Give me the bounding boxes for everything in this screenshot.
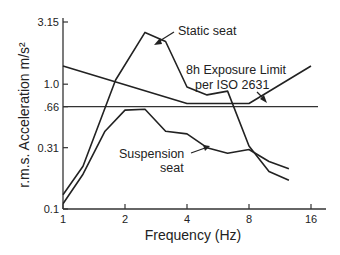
annotation-iso: per ISO 2631: [195, 78, 269, 92]
chart: 3.151.0.660.310.1 124816 Static seat 8h …: [0, 0, 340, 255]
y-axis-label: r.m.s. Acceleration m/s²: [16, 42, 32, 188]
x-tick-label: 8: [246, 213, 252, 225]
annotation-suspension: Suspension: [119, 147, 184, 161]
x-ticks: 124816: [60, 204, 317, 225]
y-tick-label: 1.0: [44, 78, 59, 90]
x-tick-label: 16: [305, 213, 317, 225]
x-axis-label: Frequency (Hz): [145, 227, 241, 243]
arrow-suspension: [191, 148, 205, 153]
series-group: [63, 32, 311, 203]
x-tick-label: 4: [184, 213, 190, 225]
x-tick-label: 1: [60, 213, 66, 225]
x-tick-label: 2: [122, 213, 128, 225]
y-tick-label: 0.31: [38, 142, 59, 154]
annotation-exposure-limit: 8h Exposure Limit: [186, 63, 287, 77]
annotation-static-seat: Static seat: [178, 24, 237, 38]
y-tick-label: 3.15: [38, 16, 59, 28]
y-tick-label: .66: [44, 101, 59, 113]
y-tick-label: 0.1: [44, 203, 59, 215]
annotation-suspension-seat: seat: [160, 161, 184, 175]
